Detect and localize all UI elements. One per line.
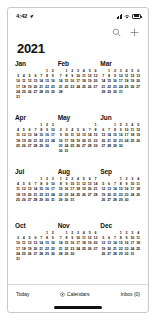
month-day-grid: 0123456789101112131415161718192021222324…: [58, 231, 99, 257]
battery-icon: [132, 14, 141, 19]
month-day-grid: 0001234567891011121314151617181920212223…: [100, 231, 141, 257]
month-day-grid: 0000123456789101112131415161718192021222…: [15, 123, 56, 149]
month-day-grid: 0123456789101112131415161718192021222324…: [100, 69, 141, 95]
day-cell[interactable]: 31: [69, 198, 75, 203]
month-name-label: Jan: [15, 59, 56, 68]
day-cell[interactable]: 27: [93, 85, 99, 90]
wifi-icon: [124, 14, 130, 19]
month-name-label: Oct: [15, 221, 56, 230]
location-arrow-icon: [29, 14, 34, 19]
month-day-grid: 0000123456789101112131415161718192021222…: [15, 177, 56, 203]
month-name-label: Jul: [15, 167, 56, 176]
bottom-toolbar: Today Calendars Inbox (0): [8, 284, 148, 303]
top-toolbar: [8, 24, 148, 41]
month-day-grid: 0000001234567891011121314151617181920212…: [58, 123, 99, 154]
home-indicator: [54, 306, 102, 308]
month-day-grid: 0000012345678910111213141516171819202122…: [15, 69, 56, 100]
month-name-label: Nov: [58, 221, 99, 230]
calendars-label: Calendars: [67, 291, 90, 297]
status-bar-left: 4:42: [16, 13, 34, 19]
month-jan[interactable]: Jan0000012345678910111213141516171819202…: [14, 59, 57, 113]
month-name-label: Sep: [100, 167, 141, 176]
day-cell[interactable]: 29: [93, 144, 99, 149]
day-cell[interactable]: 31: [15, 257, 21, 262]
month-name-label: Mar: [100, 59, 141, 68]
month-name-label: Feb: [58, 59, 99, 68]
day-cell[interactable]: 31: [50, 198, 56, 203]
search-icon[interactable]: [112, 28, 121, 37]
month-mar[interactable]: Mar0123456789101112131415161718192021222…: [99, 59, 142, 113]
today-button[interactable]: Today: [16, 291, 29, 297]
month-nov[interactable]: Nov0123456789101112131415161718192021222…: [57, 221, 100, 275]
calendars-button[interactable]: Calendars: [60, 291, 89, 297]
month-may[interactable]: May0000001234567891011121314151617181920…: [57, 113, 100, 167]
day-cell[interactable]: 30: [124, 198, 130, 203]
cellular-signal-icon: [117, 14, 123, 19]
month-day-grid: 0012345678910111213141516171819202122232…: [100, 123, 141, 149]
month-sep[interactable]: Sep0001234567891011121314151617181920212…: [99, 167, 142, 221]
page-title: 2021: [8, 41, 148, 59]
calendars-circle-icon: [60, 292, 65, 297]
inbox-label: Inbox (0): [120, 291, 140, 297]
home-indicator-area: [8, 303, 148, 312]
month-day-grid: 0001234567891011121314151617181920212223…: [100, 177, 141, 203]
day-cell[interactable]: 30: [118, 144, 124, 149]
month-oct[interactable]: Oct0000012345678910111213141516171819202…: [14, 221, 57, 275]
month-name-label: May: [58, 113, 99, 122]
day-cell[interactable]: 28: [58, 90, 64, 95]
day-cell[interactable]: 31: [63, 149, 69, 154]
day-cell[interactable]: 30: [44, 144, 50, 149]
month-day-grid: 1234567891011121314151617181920212223242…: [58, 177, 99, 203]
month-day-grid: 0000012345678910111213141516171819202122…: [15, 231, 56, 262]
today-label: Today: [16, 291, 29, 297]
day-cell[interactable]: 30: [50, 252, 56, 257]
day-cell[interactable]: 31: [129, 252, 135, 257]
month-aug[interactable]: Aug1234567891011121314151617181920212223…: [57, 167, 100, 221]
month-jul[interactable]: Jul0000123456789101112131415161718192021…: [14, 167, 57, 221]
month-name-label: Jun: [100, 113, 141, 122]
month-dec[interactable]: Dec0001234567891011121314151617181920212…: [99, 221, 142, 275]
month-name-label: Aug: [58, 167, 99, 176]
month-feb[interactable]: Feb0123456789101112131415161718192021222…: [57, 59, 100, 113]
day-cell[interactable]: 27: [135, 85, 141, 90]
day-cell[interactable]: 25: [135, 193, 141, 198]
year-month-grid[interactable]: Jan0000012345678910111213141516171819202…: [8, 59, 148, 284]
month-day-grid: 0123456789101112131415161718192021222324…: [58, 69, 99, 95]
month-jun[interactable]: Jun0012345678910111213141516171819202122…: [99, 113, 142, 167]
day-cell[interactable]: 28: [93, 193, 99, 198]
day-cell[interactable]: 25: [135, 247, 141, 252]
day-cell[interactable]: 30: [69, 252, 75, 257]
month-name-label: Apr: [15, 113, 56, 122]
status-bar: 4:42: [8, 8, 148, 24]
phone-screen: 4:42 2021 Jan000001234567891011121314151…: [7, 7, 149, 313]
day-cell[interactable]: 31: [15, 95, 21, 100]
day-cell[interactable]: 26: [135, 139, 141, 144]
status-bar-clock: 4:42: [16, 13, 27, 19]
status-bar-right: [117, 14, 142, 19]
plus-icon[interactable]: [130, 28, 139, 37]
day-cell[interactable]: 27: [93, 247, 99, 252]
day-cell[interactable]: 24: [50, 139, 56, 144]
month-apr[interactable]: Apr0000123456789101112131415161718192021…: [14, 113, 57, 167]
day-cell[interactable]: 31: [118, 90, 124, 95]
day-cell[interactable]: 30: [50, 90, 56, 95]
inbox-button[interactable]: Inbox (0): [120, 291, 140, 297]
month-name-label: Dec: [100, 221, 141, 230]
